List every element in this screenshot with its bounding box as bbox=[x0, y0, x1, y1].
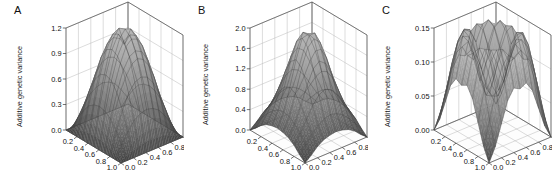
svg-text:0.2: 0.2 bbox=[63, 137, 73, 146]
panel-b: B Additive genetic variance 0.00.40.81.2… bbox=[184, 0, 368, 178]
svg-text:0.6: 0.6 bbox=[346, 148, 356, 157]
svg-text:2.0: 2.0 bbox=[235, 24, 245, 33]
svg-text:0.2: 0.2 bbox=[321, 158, 331, 167]
svg-text:0.6: 0.6 bbox=[51, 75, 61, 84]
svg-text:0.8: 0.8 bbox=[464, 157, 474, 166]
svg-text:0.00: 0.00 bbox=[415, 126, 429, 135]
svg-text:0.4: 0.4 bbox=[334, 153, 344, 162]
svg-text:0.6: 0.6 bbox=[453, 150, 463, 159]
svg-text:1.6: 1.6 bbox=[235, 44, 245, 53]
svg-text:1.0: 1.0 bbox=[107, 163, 117, 172]
panel-c: C Additive genetic variance 0.000.050.10… bbox=[368, 0, 552, 178]
svg-text:0.4: 0.4 bbox=[150, 153, 160, 162]
svg-text:0.8: 0.8 bbox=[175, 143, 184, 152]
svg-text:0.0: 0.0 bbox=[51, 126, 61, 135]
svg-text:0.0: 0.0 bbox=[125, 163, 135, 172]
svg-text:0.6: 0.6 bbox=[162, 148, 172, 157]
panel-a: A Additive genetic variance 0.00.30.60.9… bbox=[0, 0, 184, 178]
svg-text:1.2: 1.2 bbox=[235, 64, 245, 73]
svg-text:0.9: 0.9 bbox=[51, 49, 61, 58]
svg-text:0.2: 0.2 bbox=[505, 158, 515, 167]
svg-text:0.4: 0.4 bbox=[258, 144, 268, 153]
svg-text:0.2: 0.2 bbox=[247, 137, 257, 146]
svg-text:0.8: 0.8 bbox=[280, 157, 290, 166]
svg-text:0.15: 0.15 bbox=[415, 24, 429, 33]
svg-text:0.2: 0.2 bbox=[137, 158, 147, 167]
svg-text:0.4: 0.4 bbox=[518, 153, 528, 162]
svg-text:0.8: 0.8 bbox=[543, 143, 552, 152]
svg-text:0.8: 0.8 bbox=[235, 85, 245, 94]
svg-text:0.6: 0.6 bbox=[269, 150, 279, 159]
svg-text:0.0: 0.0 bbox=[493, 163, 503, 172]
svg-text:1.0: 1.0 bbox=[475, 163, 485, 172]
figure-three-panel-surface-plots: A Additive genetic variance 0.00.30.60.9… bbox=[0, 0, 553, 178]
svg-text:0.6: 0.6 bbox=[530, 148, 540, 157]
svg-text:0.4: 0.4 bbox=[74, 144, 84, 153]
svg-text:0.0: 0.0 bbox=[235, 126, 245, 135]
svg-text:1.2: 1.2 bbox=[51, 24, 61, 33]
panel-c-plot: 0.000.050.100.150.20.40.60.81.00.00.20.4… bbox=[368, 0, 552, 178]
svg-text:0.4: 0.4 bbox=[235, 105, 245, 114]
panel-b-plot: 0.00.40.81.21.62.00.20.40.60.81.00.00.20… bbox=[184, 0, 368, 178]
svg-text:0.0: 0.0 bbox=[309, 163, 319, 172]
svg-text:0.8: 0.8 bbox=[96, 157, 106, 166]
svg-text:0.3: 0.3 bbox=[51, 100, 61, 109]
svg-text:1.0: 1.0 bbox=[291, 163, 301, 172]
svg-text:0.4: 0.4 bbox=[442, 144, 452, 153]
svg-text:0.10: 0.10 bbox=[415, 58, 429, 67]
svg-text:0.8: 0.8 bbox=[359, 143, 368, 152]
svg-text:0.2: 0.2 bbox=[431, 137, 441, 146]
panel-a-plot: 0.00.30.60.91.20.20.40.60.81.00.00.20.40… bbox=[0, 0, 184, 178]
svg-text:0.05: 0.05 bbox=[415, 92, 429, 101]
svg-text:0.6: 0.6 bbox=[85, 150, 95, 159]
